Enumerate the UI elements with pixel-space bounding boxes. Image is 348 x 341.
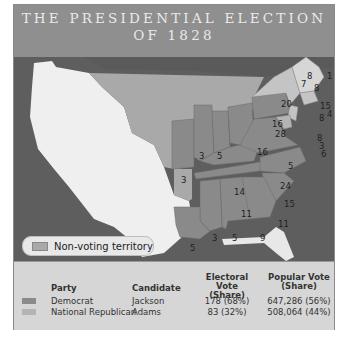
results-table: Party Candidate Electoral Vote (Share) P… bbox=[14, 261, 334, 330]
national-republican-swatch bbox=[22, 309, 36, 315]
svg-text:11: 11 bbox=[278, 219, 289, 229]
map-title: THE PRESIDENTIAL ELECTION OF 1828 bbox=[14, 5, 334, 57]
svg-text:5: 5 bbox=[288, 161, 293, 171]
svg-text:5: 5 bbox=[217, 151, 222, 161]
svg-text:14: 14 bbox=[234, 187, 245, 197]
svg-text:8: 8 bbox=[314, 83, 319, 93]
row-electoral: 83 (32%) bbox=[194, 307, 260, 317]
svg-text:15: 15 bbox=[284, 199, 295, 209]
row-electoral: 178 (68%) bbox=[194, 296, 260, 306]
svg-text:6: 6 bbox=[321, 149, 326, 159]
ev-label: 1 bbox=[327, 71, 332, 81]
svg-text:4: 4 bbox=[327, 109, 332, 119]
row-party: Democrat bbox=[51, 296, 93, 306]
svg-text:16: 16 bbox=[272, 119, 283, 129]
header-candidate: Candidate bbox=[132, 284, 181, 293]
svg-text:24: 24 bbox=[280, 181, 291, 191]
row-popular: 508,064 (44%) bbox=[266, 307, 332, 317]
svg-text:5: 5 bbox=[232, 233, 237, 243]
svg-text:28: 28 bbox=[275, 129, 286, 139]
democrat-swatch bbox=[22, 298, 36, 304]
svg-text:9: 9 bbox=[260, 233, 265, 243]
svg-text:3: 3 bbox=[181, 175, 186, 185]
election-map-figure: THE PRESIDENTIAL ELECTION OF 1828 bbox=[13, 4, 335, 330]
non-voting-legend: Non-voting territory bbox=[22, 236, 154, 256]
us-map: 1 8 8 7 20 15 4 8 8 3 6 28 16 16 5 3 3 1… bbox=[14, 57, 334, 261]
non-voting-label: Non-voting territory bbox=[54, 241, 153, 252]
svg-text:5: 5 bbox=[190, 243, 195, 253]
row-candidate: Adams bbox=[132, 307, 161, 317]
map-shapes: 1 8 8 7 20 15 4 8 8 3 6 28 16 16 5 3 3 1… bbox=[14, 57, 334, 261]
title-line-1: THE PRESIDENTIAL ELECTION bbox=[14, 10, 334, 27]
header-party: Party bbox=[51, 284, 77, 293]
row-party: National Republican bbox=[51, 307, 136, 317]
row-candidate: Jackson bbox=[132, 296, 164, 306]
svg-text:3: 3 bbox=[212, 233, 217, 243]
svg-text:20: 20 bbox=[281, 99, 292, 109]
svg-text:11: 11 bbox=[241, 209, 252, 219]
title-line-2: OF 1828 bbox=[14, 27, 334, 44]
svg-text:3: 3 bbox=[199, 151, 204, 161]
non-voting-swatch bbox=[32, 242, 48, 251]
svg-text:7: 7 bbox=[301, 79, 306, 89]
svg-text:16: 16 bbox=[257, 147, 268, 157]
row-popular: 647,286 (56%) bbox=[266, 296, 332, 306]
header-popular-vote: Popular Vote (Share) bbox=[266, 273, 332, 291]
svg-text:8: 8 bbox=[319, 113, 324, 123]
svg-text:8: 8 bbox=[307, 71, 312, 81]
